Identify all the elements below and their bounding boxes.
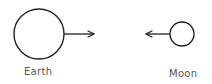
moon-label: Moon: [169, 68, 197, 79]
moon-circle: [170, 22, 194, 46]
earth-label: Earth: [24, 66, 52, 77]
earth-circle: [14, 9, 64, 59]
